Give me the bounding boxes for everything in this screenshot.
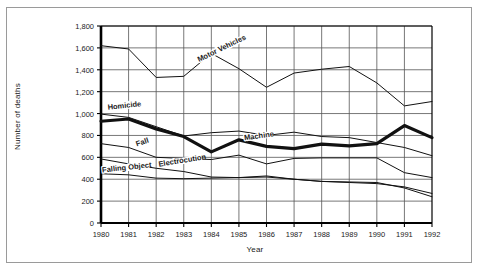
series-label-text: Electrocution [158,152,207,168]
y-tick-label: 200 [81,197,94,206]
y-tick-label: 1,400 [75,66,94,75]
x-tick-label: 1991 [396,230,413,239]
line-chart: Motor VehiclesMotor VehiclesHomicideHomi… [0,0,483,273]
series-label-machine: MachineMachine [243,129,274,142]
x-tick-label: 1980 [93,230,110,239]
y-tick-label: 1,600 [75,44,94,53]
x-tick-label: 1990 [368,230,385,239]
series-label-text: Machine [243,129,274,142]
series-label-text: Homicide [107,99,142,111]
y-tick-label: 1,200 [75,88,94,97]
x-tick-label: 1982 [148,230,165,239]
series-label-text: Fall [135,136,150,149]
y-tick-label: 800 [81,131,94,140]
x-tick-label: 1992 [424,230,441,239]
y-tick-label: 400 [81,175,94,184]
y-tick-label: 0 [90,219,94,228]
x-tick-label: 1987 [286,230,303,239]
y-tick-label: 600 [81,153,94,162]
x-tick-label: 1983 [175,230,192,239]
y-tick-label: 1,800 [75,22,94,31]
x-axis-tick-labels: 1980198119821983198419851986198719881989… [93,230,441,239]
x-tick-label: 1986 [258,230,275,239]
series-label-homicide: HomicideHomicide [107,99,142,111]
figure-container: Number of deaths Year Motor VehiclesMoto… [0,0,483,273]
y-tick-label: 1,000 [75,110,94,119]
x-tick-label: 1985 [231,230,248,239]
y-axis-tick-labels: 02004006008001,0001,2001,4001,6001,800 [75,22,94,228]
x-tick-label: 1981 [120,230,137,239]
x-tick-label: 1988 [313,230,330,239]
series-label-electrocution: ElectrocutionElectrocution [158,152,207,168]
x-tick-label: 1984 [203,230,220,239]
x-tick-label: 1989 [341,230,358,239]
series-label-text: Falling Object [102,160,153,174]
series-label-fall: FallFall [135,136,150,149]
series-label-group: Motor VehiclesMotor VehiclesHomicideHomi… [102,33,275,175]
series-label-falling-object: Falling ObjectFalling Object [102,160,153,174]
